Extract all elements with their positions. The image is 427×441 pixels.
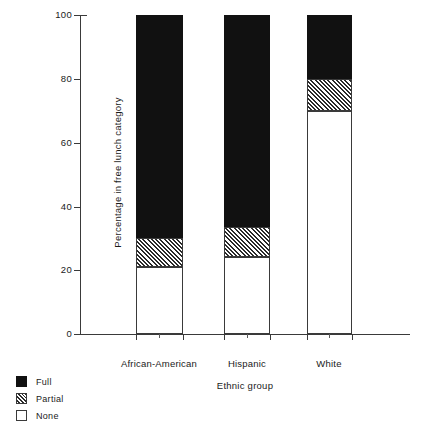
legend-item-full[interactable]: Full — [16, 373, 176, 390]
bar-segment-partial-hispanic[interactable] — [224, 227, 270, 257]
bar-white[interactable] — [307, 15, 352, 334]
y-tick-label-60: 60 — [30, 138, 72, 148]
y-tick-label-40: 40 — [30, 202, 72, 212]
bar-african-american[interactable] — [136, 15, 183, 334]
y-axis-title: Percentage in free lunch category — [112, 68, 123, 278]
figure-caption-clipped — [0, 436, 427, 441]
x-tick-center-african-american — [159, 334, 160, 338]
x-tick-sep-1 — [136, 334, 137, 340]
bar-segment-full-white[interactable] — [307, 15, 352, 79]
bar-segment-full-hispanic[interactable] — [224, 15, 270, 227]
bar-segment-partial-white[interactable] — [307, 79, 352, 111]
plot-area: African-American Hispanic White Percenta… — [80, 15, 410, 334]
x-tick-sep-3 — [224, 334, 225, 340]
figure-container: 100 80 60 40 20 0 — [0, 0, 427, 441]
chart-legend: Full Partial None — [16, 373, 176, 424]
x-axis-label-hispanic: Hispanic — [228, 358, 266, 369]
x-tick-sep-6 — [352, 334, 353, 340]
y-tick-label-0: 0 — [30, 329, 72, 339]
x-tick-sep-4 — [270, 334, 271, 340]
white-square-icon — [16, 410, 27, 421]
x-tick-sep-5 — [307, 334, 308, 340]
bar-segment-none-white[interactable] — [307, 111, 352, 334]
bar-segment-full-african-american[interactable] — [136, 15, 183, 238]
bar-segment-none-african-american[interactable] — [136, 267, 183, 334]
legend-label-none: None — [36, 411, 59, 421]
x-axis-label-african-american: African-American — [121, 358, 197, 369]
y-tick-label-20: 20 — [30, 265, 72, 275]
legend-label-full: Full — [36, 377, 52, 387]
x-tick-center-white — [329, 334, 330, 338]
bar-segment-partial-african-american[interactable] — [136, 238, 183, 267]
y-tick-label-80: 80 — [30, 74, 72, 84]
legend-label-partial: Partial — [36, 394, 64, 404]
bar-segment-none-hispanic[interactable] — [224, 257, 270, 334]
y-tick-mark-0 — [74, 334, 81, 335]
black-square-icon — [16, 376, 27, 387]
legend-item-partial[interactable]: Partial — [16, 390, 176, 407]
legend-item-none[interactable]: None — [16, 407, 176, 424]
bar-hispanic[interactable] — [224, 15, 270, 334]
hatched-square-icon — [16, 393, 27, 404]
x-axis-label-white: White — [316, 358, 341, 369]
x-tick-sep-2 — [183, 334, 184, 340]
x-axis-line — [80, 334, 410, 335]
x-tick-center-hispanic — [247, 334, 248, 338]
y-tick-label-100: 100 — [30, 10, 72, 20]
